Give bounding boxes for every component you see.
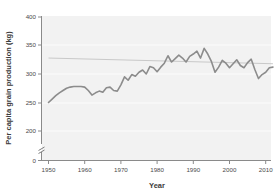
plot-background [42, 16, 271, 160]
chart-figure: 400 350 300 250 200 0 1950 1960 1970 198… [0, 0, 274, 195]
y-axis-title: Per capita grain production (kg) [4, 31, 13, 145]
x-tick-label-1980: 1980 [150, 166, 164, 173]
x-tick-label-1950: 1950 [42, 166, 56, 173]
x-tick-label-1970: 1970 [114, 166, 128, 173]
x-axis-title: Year [149, 181, 165, 190]
y-tick-label-0: 0 [33, 157, 37, 164]
y-tick-label-250: 250 [26, 99, 37, 106]
y-tick-label-400: 400 [26, 13, 37, 20]
y-tick-label-350: 350 [26, 41, 37, 48]
y-tick-label-300: 300 [26, 70, 37, 77]
x-axis-ticks [49, 161, 266, 165]
line-chart-svg: 400 350 300 250 200 0 1950 1960 1970 198… [0, 0, 274, 195]
y-tick-label-200: 200 [26, 127, 37, 134]
y-axis-ticks [38, 17, 42, 161]
x-tick-label-2010: 2010 [259, 166, 273, 173]
x-tick-label-1990: 1990 [186, 166, 200, 173]
x-tick-label-1960: 1960 [78, 166, 92, 173]
x-tick-label-2000: 2000 [223, 166, 237, 173]
